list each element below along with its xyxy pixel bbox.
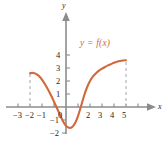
y-tick-label--2: −2 bbox=[50, 129, 59, 138]
y-tick-label-4: 4 bbox=[56, 51, 60, 60]
y-tick-label-3: 3 bbox=[56, 64, 60, 73]
x-tick-label--1: −1 bbox=[37, 111, 46, 120]
x-tick-label--2: −2 bbox=[25, 111, 34, 120]
x-tick-label-2: 2 bbox=[86, 111, 90, 120]
y-axis-name: y bbox=[62, 2, 66, 10]
plot-canvas bbox=[0, 0, 166, 146]
y-tick-label-2: 2 bbox=[56, 77, 60, 86]
x-axis-name: x bbox=[158, 103, 162, 111]
x-axis-arrow-icon bbox=[147, 103, 156, 111]
curve-equation-label: y = f(x) bbox=[80, 39, 110, 49]
y-axis-arrow-icon bbox=[62, 12, 70, 21]
y-tick-label-1: 1 bbox=[56, 90, 60, 99]
x-tick-label--3: −3 bbox=[13, 111, 22, 120]
x-tick-label-5: 5 bbox=[122, 111, 126, 120]
x-tick-label-4: 4 bbox=[110, 111, 114, 120]
function-graph-figure: −3 −2 −1 0 2 3 4 5 4 3 2 1 −1 −2 x y y =… bbox=[0, 0, 166, 146]
y-tick-label--1: −1 bbox=[50, 116, 59, 125]
x-tick-label-3: 3 bbox=[98, 111, 102, 120]
